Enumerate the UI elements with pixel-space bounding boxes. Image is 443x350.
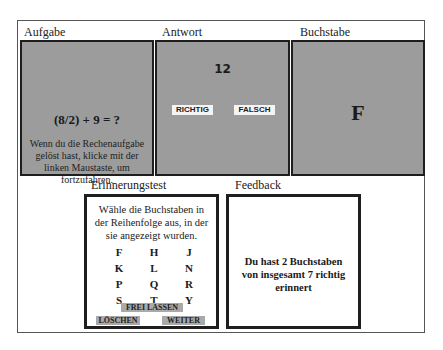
letter-option[interactable]: H xyxy=(144,244,164,260)
header-letter: Buchstabe xyxy=(300,25,350,40)
letter-grid: F H J K L N P Q R S T Y xyxy=(109,244,199,308)
letter-option[interactable]: Q xyxy=(144,276,164,292)
letter-option[interactable]: P xyxy=(109,276,129,292)
proposed-answer: 12 xyxy=(157,62,288,76)
letter-option[interactable]: J xyxy=(179,244,199,260)
letter-row: F H J xyxy=(109,244,199,260)
feedback-message: Du hast 2 Buchstaben von insgesamt 7 ric… xyxy=(237,255,350,294)
blank-button[interactable]: FREI LASSEN xyxy=(121,303,183,312)
header-task: Aufgabe xyxy=(24,25,65,40)
displayed-letter: F xyxy=(293,100,423,126)
letter-row: P Q R xyxy=(109,276,199,292)
memory-test-panel: Wähle die Buchstaben in der Reihenfolge … xyxy=(84,194,219,329)
letter-option[interactable]: F xyxy=(109,244,129,260)
header-feedback: Feedback xyxy=(235,178,281,193)
task-panel[interactable]: (8/2) + 9 = ? Wenn du die Rechenaufgabe … xyxy=(20,40,154,176)
header-answer: Antwort xyxy=(162,25,202,40)
next-button[interactable]: WEITER xyxy=(162,316,205,325)
letter-option[interactable]: L xyxy=(144,260,164,276)
memory-instruction: Wähle die Buchstaben in der Reihenfolge … xyxy=(91,203,212,242)
letter-option[interactable]: K xyxy=(109,260,129,276)
clear-button[interactable]: LÖSCHEN xyxy=(96,316,140,325)
letter-option[interactable]: N xyxy=(179,260,199,276)
correct-button[interactable]: RICHTIG xyxy=(172,105,213,115)
letter-row: K L N xyxy=(109,260,199,276)
feedback-panel: Du hast 2 Buchstaben von insgesamt 7 ric… xyxy=(226,194,361,329)
letter-option[interactable]: R xyxy=(179,276,199,292)
answer-panel: 12 RICHTIG FALSCH xyxy=(155,40,290,176)
header-memory-test: Erinnerungstest xyxy=(91,178,166,193)
letter-panel: F xyxy=(291,40,425,176)
equation: (8/2) + 9 = ? xyxy=(22,112,152,128)
wrong-button[interactable]: FALSCH xyxy=(234,105,275,115)
